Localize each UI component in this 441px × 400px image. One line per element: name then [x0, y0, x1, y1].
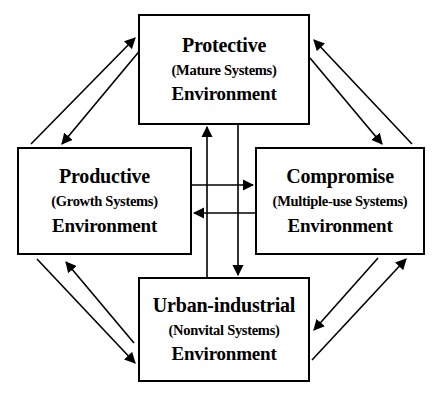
node-protective[interactable]: Protective (Mature Systems) Environment: [138, 14, 310, 125]
edge-compromise-to-protective: [314, 40, 412, 144]
node-productive[interactable]: Productive (Growth Systems) Environment: [17, 147, 192, 255]
node-protective-footer: Environment: [171, 84, 276, 104]
node-productive-subtitle: (Growth Systems): [51, 194, 158, 209]
node-protective-subtitle: (Mature Systems): [172, 63, 277, 78]
node-urban-industrial[interactable]: Urban-industrial (Nonvital Systems) Envi…: [138, 277, 310, 382]
edge-productive-to-protective: [31, 38, 135, 144]
node-urban-industrial-footer: Environment: [171, 344, 276, 364]
node-compromise-title: Compromise: [286, 166, 394, 187]
node-protective-title: Protective: [182, 35, 266, 56]
node-urban-industrial-title: Urban-industrial: [153, 295, 295, 316]
node-compromise-footer: Environment: [287, 216, 392, 236]
edge-compromise-to-urban: [314, 258, 378, 330]
node-urban-industrial-subtitle: (Nonvital Systems): [169, 323, 280, 338]
edge-protective-to-productive: [62, 48, 142, 144]
node-productive-title: Productive: [59, 166, 150, 187]
node-compromise-subtitle: (Multiple-use Systems): [273, 194, 408, 209]
edge-urban-to-productive: [66, 262, 134, 343]
node-compromise[interactable]: Compromise (Multiple-use Systems) Enviro…: [255, 147, 425, 255]
edge-urban-to-compromise: [312, 259, 406, 360]
diagram-canvas: Protective (Mature Systems) Environment …: [0, 0, 441, 400]
node-productive-footer: Environment: [52, 216, 157, 236]
edge-productive-to-urban: [37, 259, 135, 363]
